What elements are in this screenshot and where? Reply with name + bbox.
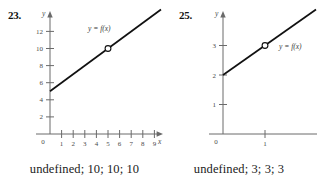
function-label-25: y = f(x) xyxy=(278,42,302,51)
y-axis-arrowhead-23 xyxy=(47,11,52,17)
problem-25-block: 25. y 0 1 2 3 xyxy=(165,0,317,179)
x-ticks-23: 1 2 3 4 5 6 7 8 9 xyxy=(60,130,157,148)
x-axis-label-23: x xyxy=(157,137,162,146)
x-tick-label-7: 7 xyxy=(129,140,133,148)
y-axis-label-25: y xyxy=(214,9,219,18)
y-tick-label-10: 10 xyxy=(36,45,44,53)
y-axis-label-23: y xyxy=(41,9,46,18)
x-tick-label-5: 5 xyxy=(106,140,110,148)
graph-23-svg: y x 0 2 4 6 8 10 12 xyxy=(30,6,164,154)
y-tick-label-2: 2 xyxy=(40,113,44,121)
x-tick-label-2: 2 xyxy=(71,140,75,148)
graph-25: y 0 1 2 3 1 xyxy=(203,6,317,154)
problem-23-block: 23. y x 0 2 4 xyxy=(0,0,165,179)
problem-number-23: 23. xyxy=(8,9,21,21)
graph-25-svg: y 0 1 2 3 1 xyxy=(203,6,317,154)
y-tick-label-8: 8 xyxy=(40,62,44,70)
x-axis-arrowhead-23 xyxy=(157,131,163,136)
open-point-25 xyxy=(262,43,268,49)
function-line-25 xyxy=(223,10,316,76)
x-ticks-25: 1 xyxy=(263,130,267,148)
answer-caption-25: undefined; 3; 3; 3 xyxy=(163,162,315,177)
x-tick-label-1: 1 xyxy=(60,140,64,148)
y-axis-arrowhead-25 xyxy=(220,11,225,17)
x-tick-label-6: 6 xyxy=(118,140,122,148)
y-tick-label-6: 6 xyxy=(40,79,44,87)
y-tick-label-1: 1 xyxy=(213,101,217,109)
origin-label-25: 0 xyxy=(214,138,218,146)
x-tick-label-3: 3 xyxy=(83,140,87,148)
origin-label-23: 0 xyxy=(41,138,45,146)
y-tick-label-3: 3 xyxy=(213,42,217,50)
x-tick-label-1: 1 xyxy=(263,140,267,148)
problem-number-25: 25. xyxy=(179,9,192,21)
y-ticks-25: 1 2 3 xyxy=(213,42,228,109)
answer-caption-23: undefined; 10; 10; 10 xyxy=(2,162,167,177)
y-ticks-23: 2 4 6 8 10 12 xyxy=(36,28,54,122)
open-point-23 xyxy=(105,46,111,52)
y-tick-label-4: 4 xyxy=(40,96,44,104)
graph-23: y x 0 2 4 6 8 10 12 xyxy=(30,6,164,154)
x-tick-label-8: 8 xyxy=(141,140,145,148)
y-tick-label-2: 2 xyxy=(213,72,217,80)
y-tick-label-12: 12 xyxy=(36,28,44,36)
textbook-answer-figure-page: 23. y x 0 2 4 xyxy=(0,0,317,179)
function-label-23: y = f(x) xyxy=(87,24,111,33)
x-tick-label-4: 4 xyxy=(95,140,99,148)
x-tick-label-9: 9 xyxy=(153,140,157,148)
